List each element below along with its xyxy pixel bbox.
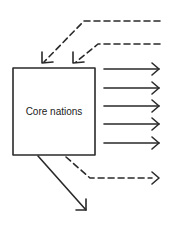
- outgoing-solid-arrow-down: [38, 156, 86, 210]
- incoming-dashed-arrow-1: [44, 21, 160, 62]
- outgoing-solid-arrow-5: [104, 137, 159, 149]
- core-nations-label: Core nations: [13, 68, 95, 155]
- outgoing-solid-arrow-2: [104, 82, 159, 94]
- outgoing-solid-arrow-3: [104, 100, 159, 112]
- incoming-dashed-arrow-2: [76, 44, 160, 62]
- outgoing-solid-arrow-4: [104, 118, 159, 130]
- outgoing-solid-arrow-1: [104, 63, 159, 75]
- outgoing-dashed-arrow: [66, 157, 159, 184]
